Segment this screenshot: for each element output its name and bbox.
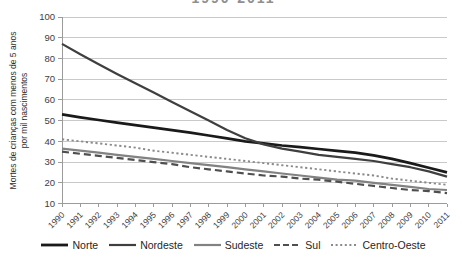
legend-item-sudeste: Sudeste (194, 239, 264, 251)
x-tick-label: 1991 (64, 210, 85, 231)
legend-item-norte: Norte (41, 239, 98, 251)
y-tick-label: 50 (44, 115, 55, 126)
legend-line-swatch (274, 241, 301, 249)
legend-item-nordeste: Nordeste (109, 239, 183, 251)
x-tick-label: 2007 (358, 210, 379, 231)
x-tick-label: 1992 (83, 210, 104, 231)
legend-item-sul: Sul (274, 239, 320, 251)
legend-item-centro-oeste: Centro-Oeste (331, 239, 425, 251)
x-tick-label: 2011 (431, 210, 451, 230)
y-tick-label: 40 (44, 136, 55, 147)
x-tick-label: 1998 (193, 210, 214, 231)
x-tick-label: 1995 (138, 210, 159, 231)
x-tick-label: 2009 (394, 210, 415, 231)
x-tick-label: 2003 (284, 210, 305, 231)
legend-label: Sul (305, 239, 320, 251)
x-tick-label: 2006 (339, 210, 360, 231)
y-tick-label: 30 (44, 156, 55, 167)
legend-line-swatch (109, 241, 136, 249)
y-tick-label: 10 (44, 198, 55, 209)
legend-line-swatch (194, 241, 221, 249)
x-tick-label: 1990 (46, 210, 67, 231)
y-tick-label: 100 (39, 11, 55, 22)
chart-figure: 1990-2011 Mortes de crianças com menos d… (0, 0, 467, 257)
y-tick-label: 70 (44, 73, 55, 84)
x-tick-label: 2004 (303, 210, 324, 231)
x-tick-label: 1997 (174, 210, 195, 231)
y-tick-label: 20 (44, 177, 55, 188)
y-tick-label: 80 (44, 53, 55, 64)
line-chart-plot: 1009080706050403020101990199119921993199… (0, 0, 467, 257)
x-tick-label: 2010 (413, 210, 434, 231)
series-line-sudeste (62, 149, 447, 190)
x-tick-label: 2005 (321, 210, 342, 231)
legend-line-swatch (331, 241, 358, 249)
x-tick-label: 1996 (156, 210, 177, 231)
legend-label: Nordeste (140, 239, 183, 251)
x-tick-label: 2008 (376, 210, 397, 231)
x-tick-label: 1993 (101, 210, 122, 231)
y-tick-label: 90 (44, 32, 55, 43)
x-tick-label: 1994 (119, 210, 140, 231)
x-tick-label: 2001 (248, 210, 269, 231)
legend-label: Centro-Oeste (362, 239, 425, 251)
x-tick-label: 2000 (229, 210, 250, 231)
legend-label: Norte (72, 239, 98, 251)
x-tick-label: 2002 (266, 210, 287, 231)
chart-legend: NorteNordesteSudesteSulCentro-Oeste (0, 237, 467, 253)
legend-label: Sudeste (225, 239, 264, 251)
series-line-nordeste (62, 44, 447, 177)
x-tick-label: 1999 (211, 210, 232, 231)
legend-line-swatch (41, 241, 68, 249)
y-tick-label: 60 (44, 94, 55, 105)
